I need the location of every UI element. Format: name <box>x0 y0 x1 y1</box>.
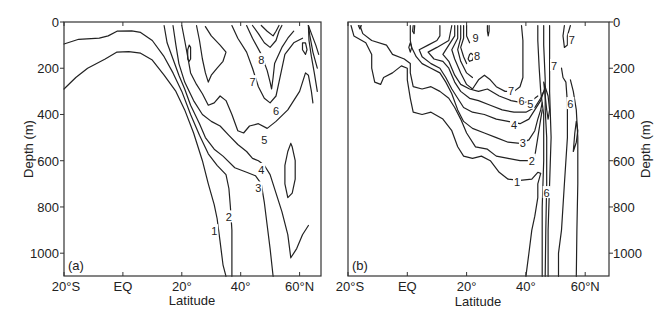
contour-line <box>467 26 470 43</box>
x-tick-label: 20° <box>457 279 477 294</box>
y-tick-label: 400 <box>613 107 635 122</box>
y-tick-label: 800 <box>37 200 59 215</box>
contour-label: 3 <box>520 137 526 149</box>
contour-line <box>173 26 308 258</box>
contour-line <box>182 26 313 134</box>
y-tick-label: 1000 <box>30 246 59 261</box>
contour-label: 7 <box>569 34 575 46</box>
x-axis-label-b: Latitude <box>455 294 501 309</box>
contour-label: 4 <box>511 119 517 131</box>
x-tick-label: EQ <box>114 279 133 294</box>
contour-line <box>461 26 467 64</box>
contour-line <box>413 26 415 34</box>
y-tick-label: 800 <box>613 200 635 215</box>
contour-label: 8 <box>474 50 480 62</box>
y-tick-label: 600 <box>37 154 59 169</box>
x-ticks-b: 20°SEQ20°40°60°N <box>336 22 600 294</box>
y-ticks-b: 02004006008001000 <box>609 15 642 261</box>
contour-line <box>232 26 303 103</box>
panel-b-tag: (b) <box>352 258 368 273</box>
x-tick-label: 20°S <box>52 279 81 294</box>
figure: 12345678 20°SEQ20°40°60°N 02004006008001… <box>0 0 672 323</box>
contour-label: 6 <box>518 95 524 107</box>
contour-line <box>559 68 568 276</box>
contour-label: 1 <box>211 225 217 237</box>
contour-line <box>538 26 544 277</box>
contour-label: 1 <box>514 176 520 188</box>
panel-a: 12345678 20°SEQ20°40°60°N 02004006008001… <box>21 15 321 308</box>
contour-label: 4 <box>258 164 264 176</box>
x-tick-label: 60°N <box>571 279 600 294</box>
contour-label: 7 <box>551 60 557 72</box>
y-tick-label: 400 <box>37 107 59 122</box>
contour-line <box>452 26 523 92</box>
y-tick-label: 0 <box>613 15 620 30</box>
contour-line <box>351 26 541 277</box>
contour-line <box>303 43 308 55</box>
contours-b <box>351 26 578 277</box>
contour-line <box>261 26 279 36</box>
contour-line <box>285 143 295 197</box>
contour-line <box>409 43 412 52</box>
y-tick-label: 0 <box>52 15 59 30</box>
x-tick-label: 40° <box>231 279 251 294</box>
panel-a-tag: (a) <box>68 258 84 273</box>
x-tick-label: 20° <box>172 279 192 294</box>
y-tick-label: 600 <box>613 154 635 169</box>
contour-line <box>544 82 550 119</box>
x-tick-label: 60°N <box>285 279 314 294</box>
contour-line <box>487 26 489 36</box>
contour-label: 9 <box>472 32 478 44</box>
x-tick-label: 40° <box>516 279 536 294</box>
contour-line <box>188 45 191 61</box>
contour-label: 8 <box>258 54 264 66</box>
contour-label: 2 <box>529 155 535 167</box>
x-tick-label: 20°S <box>336 279 365 294</box>
y-tick-label: 1000 <box>613 246 642 261</box>
contour-line <box>164 26 273 277</box>
contour-label: 2 <box>226 211 232 223</box>
contour-line <box>197 26 227 83</box>
contour-label: 6 <box>273 105 279 117</box>
y-axis-label-a: Depth (m) <box>21 120 36 178</box>
contour-label: 5 <box>261 134 267 146</box>
contours-a <box>64 26 319 277</box>
y-axis-label-b: Depth (m) <box>638 120 653 178</box>
panel-b: 1234567897667 20°SEQ20°40°60°N 020040060… <box>336 15 653 309</box>
contour-label: 6 <box>567 98 573 110</box>
contour-line <box>64 52 226 277</box>
contour-label: 7 <box>249 76 255 88</box>
contour-label: 6 <box>544 187 550 199</box>
contour-label: 5 <box>527 98 533 110</box>
contour-label: 3 <box>255 182 261 194</box>
y-tick-label: 200 <box>613 61 635 76</box>
x-tick-label: EQ <box>398 279 417 294</box>
contour-label: 7 <box>508 85 514 97</box>
y-tick-label: 200 <box>37 61 59 76</box>
x-axis-label-a: Latitude <box>169 293 215 308</box>
